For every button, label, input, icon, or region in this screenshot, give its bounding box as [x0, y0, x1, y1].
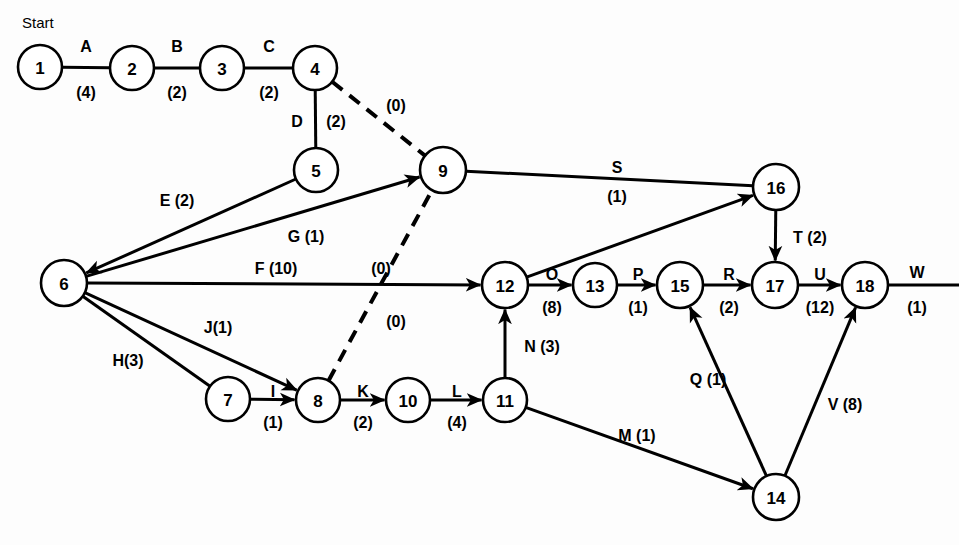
activity-network-diagram: 123456789101112131415161718 StartA(4)B(2…: [0, 0, 959, 545]
node-label-16: 16: [767, 179, 786, 198]
node-label-9: 9: [438, 162, 447, 181]
node-label-2: 2: [127, 60, 136, 79]
node-label-10: 10: [399, 392, 418, 411]
edge-G: [86, 177, 419, 276]
edge-M: [526, 407, 753, 488]
labels-layer: StartA(4)B(2)C(2)D(2)(0)E (2)G (1)F (10)…: [22, 14, 927, 444]
node-label-3: 3: [217, 60, 226, 79]
lbl-Q: Q (1): [690, 371, 726, 388]
node-label-15: 15: [671, 277, 690, 296]
lbl-L-dur: (4): [447, 414, 467, 431]
node-4[interactable]: 4: [293, 46, 337, 90]
lbl-d89b: (0): [386, 313, 406, 330]
lbl-A-dur: (4): [76, 84, 96, 101]
node-6[interactable]: 6: [41, 260, 87, 306]
lbl-C: C: [263, 38, 275, 55]
lbl-P-dur: (1): [628, 299, 648, 316]
node-label-18: 18: [856, 277, 875, 296]
lbl-T: T (2): [793, 229, 827, 246]
node-5[interactable]: 5: [294, 148, 338, 192]
edge-Q: [690, 307, 766, 476]
lbl-N: N (3): [524, 338, 560, 355]
node-label-13: 13: [586, 277, 605, 296]
node-label-7: 7: [223, 391, 232, 410]
node-label-8: 8: [313, 392, 322, 411]
lbl-B-dur: (2): [167, 84, 187, 101]
edge-dummy-4-9: [332, 82, 425, 156]
node-13[interactable]: 13: [573, 263, 617, 307]
node-label-17: 17: [766, 277, 785, 296]
lbl-H: H(3): [112, 352, 143, 369]
node-17[interactable]: 17: [752, 262, 798, 308]
lbl-U-dur: (12): [806, 299, 834, 316]
lbl-I: I: [271, 383, 275, 400]
node-7[interactable]: 7: [206, 377, 250, 421]
lbl-W-dur: (1): [907, 299, 927, 316]
node-1[interactable]: 1: [18, 45, 62, 89]
lbl-K: K: [357, 383, 369, 400]
lbl-P: P: [633, 266, 644, 283]
lbl-G: G (1): [288, 228, 324, 245]
node-label-6: 6: [59, 275, 68, 294]
node-15[interactable]: 15: [657, 262, 703, 308]
edge-D: [315, 90, 316, 148]
node-2[interactable]: 2: [110, 46, 154, 90]
node-label-14: 14: [767, 489, 786, 508]
node-12[interactable]: 12: [482, 262, 528, 308]
lbl-start: Start: [22, 14, 55, 31]
lbl-M: M (1): [618, 427, 655, 444]
lbl-d49: (0): [386, 97, 406, 114]
node-11[interactable]: 11: [483, 378, 527, 422]
node-label-12: 12: [496, 277, 515, 296]
lbl-W: W: [909, 264, 925, 281]
lbl-V: V (8): [828, 396, 863, 413]
node-label-11: 11: [496, 392, 514, 411]
lbl-D-dur: (2): [326, 113, 346, 130]
edge-J: [85, 293, 297, 391]
lbl-L: L: [452, 383, 462, 400]
lbl-O: O: [546, 266, 558, 283]
lbl-U: U: [814, 266, 826, 283]
edge-V: [785, 308, 856, 476]
lbl-R: R: [723, 266, 735, 283]
node-16[interactable]: 16: [753, 164, 799, 210]
edge-F: [87, 283, 481, 285]
lbl-F: F (10): [255, 260, 298, 277]
node-10[interactable]: 10: [386, 378, 430, 422]
node-8[interactable]: 8: [296, 378, 340, 422]
lbl-S: S: [612, 159, 623, 176]
node-14[interactable]: 14: [753, 474, 799, 520]
node-3[interactable]: 3: [200, 46, 244, 90]
lbl-d89a: (0): [371, 260, 391, 277]
network-diagram-canvas: 123456789101112131415161718 StartA(4)B(2…: [0, 0, 959, 545]
lbl-O-dur: (8): [542, 299, 562, 316]
lbl-I-dur: (1): [263, 414, 283, 431]
lbl-S-dur: (1): [607, 188, 627, 205]
edge-T: [775, 210, 776, 261]
lbl-A: A: [80, 38, 92, 55]
lbl-K-dur: (2): [353, 414, 373, 431]
node-label-5: 5: [311, 162, 320, 181]
lbl-B: B: [171, 38, 183, 55]
node-18[interactable]: 18: [842, 262, 888, 308]
edge-A: [62, 67, 110, 68]
node-label-1: 1: [35, 59, 44, 78]
lbl-D: D: [291, 113, 303, 130]
lbl-J: J(1): [204, 319, 232, 336]
lbl-C-dur: (2): [259, 84, 279, 101]
node-label-4: 4: [310, 60, 320, 79]
node-9[interactable]: 9: [420, 147, 466, 193]
edge-S: [466, 171, 753, 186]
lbl-E: E (2): [160, 192, 195, 209]
lbl-R-dur: (2): [719, 299, 739, 316]
